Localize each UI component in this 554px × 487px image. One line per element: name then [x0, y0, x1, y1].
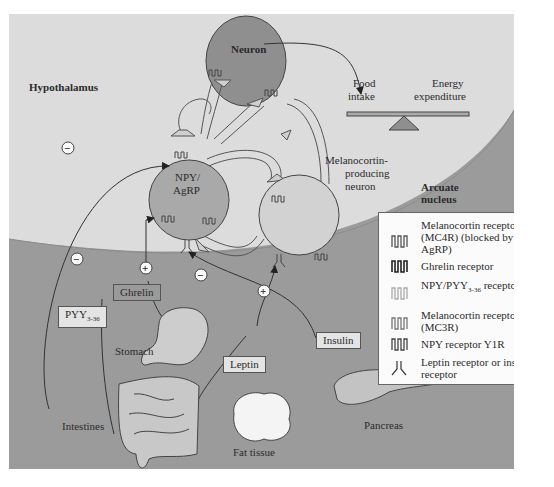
legend-text-y2r: NPY/PYY3-36 receptor Y2R: [421, 279, 514, 296]
insulin-box: Insulin: [316, 332, 361, 349]
plus-sign-leptin-mc: +: [260, 285, 266, 297]
neuron-label: Neuron: [231, 43, 266, 55]
ghrelin-receptor-icon: [389, 258, 409, 274]
pyy-label: PYY: [65, 308, 87, 320]
hypothalamus-label: Hypothalamus: [29, 81, 98, 93]
arcuate-nucleus-label-1: Arcuate: [421, 181, 459, 193]
stomach-label: Stomach: [115, 345, 154, 357]
balance-beam: [347, 112, 469, 116]
fat-tissue-label: Fat tissue: [233, 446, 275, 458]
legend-text-leptin-insulin: Leptin receptor or insulin receptor: [421, 356, 514, 380]
legend-text-y2r-sub: 3-36: [468, 286, 481, 294]
energy-expenditure-label-2: expenditure: [414, 90, 466, 102]
legend: Melanocortin receptor (MC4R) (blocked by…: [378, 212, 514, 385]
food-intake-label-1: Food: [353, 77, 376, 89]
energy-expenditure-label-1: Energy: [432, 77, 464, 89]
food-intake-label-2: intake: [348, 90, 375, 102]
minus-sign-leptin-npy: −: [197, 269, 203, 281]
legend-text-mc4r: Melanocortin receptor (MC4R) (blocked by…: [421, 219, 514, 255]
minus-sign-pyy: −: [73, 253, 79, 265]
pyy-subscript: 3-36: [87, 315, 100, 323]
pancreas-label: Pancreas: [364, 419, 403, 431]
melanocortin-label-2: producing: [345, 167, 390, 179]
leptin-label: Leptin: [230, 358, 259, 370]
arcuate-nucleus-label-2: nucleus: [421, 193, 456, 205]
insulin-label: Insulin: [323, 334, 354, 346]
legend-text-y2r-post: receptor Y2R: [481, 279, 514, 291]
mc4r-receptor-icon: [389, 233, 409, 249]
y2r-receptor-icon: [389, 285, 409, 301]
mc3r-receptor-icon: [389, 315, 409, 331]
plus-sign-ghrelin: +: [142, 262, 148, 274]
legend-text-y1r: NPY receptor Y1R: [421, 338, 514, 350]
legend-text-mc3r: Melanocortin receptor (MC3R): [421, 309, 514, 333]
diagram-canvas: − − + − + Hypothalamus Arcuate nucleus N…: [9, 14, 514, 469]
pyy-box: PYY3-36: [58, 306, 107, 328]
npy-label-2: AgRP: [173, 184, 200, 196]
y1r-receptor-icon: [389, 336, 409, 352]
ghrelin-label: Ghrelin: [120, 286, 154, 298]
melanocortin-label-1: Melanocortin-: [325, 154, 388, 166]
fat-tissue-shape: [234, 393, 291, 441]
legend-text-ghrelin: Ghrelin receptor: [421, 260, 514, 272]
leptin-box: Leptin: [223, 356, 266, 373]
intestines-label: Intestines: [62, 420, 104, 432]
ghrelin-box: Ghrelin: [113, 284, 161, 301]
legend-text-y2r-pre: NPY/PYY: [421, 279, 468, 291]
npy-label-1: NPY/: [175, 171, 200, 183]
balance-fulcrum: [389, 116, 419, 130]
minus-sign-npy: −: [64, 142, 70, 154]
melanocortin-neuron: [259, 175, 339, 255]
leptin-insulin-receptor-icon: [389, 360, 409, 376]
melanocortin-label-3: neuron: [345, 180, 376, 192]
